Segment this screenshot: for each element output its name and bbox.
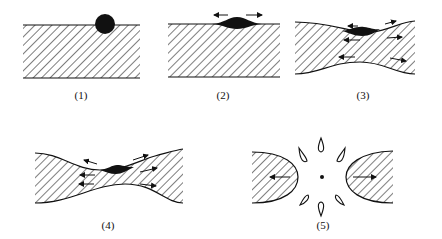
- liquid-layer: [23, 25, 140, 78]
- panel-3: [295, 21, 415, 74]
- panel-1-label: (1): [75, 89, 88, 101]
- panel-1: [23, 14, 140, 78]
- panel-2: [168, 15, 280, 77]
- panel-5: [252, 138, 393, 216]
- panel-4: [35, 149, 183, 203]
- drop: [95, 14, 115, 34]
- panel-4-label: (4): [102, 219, 115, 231]
- center-point: [320, 175, 324, 179]
- diagram-canvas: [0, 0, 442, 239]
- liquid-layer: [168, 24, 280, 77]
- panel-3-label: (3): [357, 89, 370, 101]
- panel-5-label: (5): [317, 219, 330, 231]
- panel-2-label: (2): [217, 89, 230, 101]
